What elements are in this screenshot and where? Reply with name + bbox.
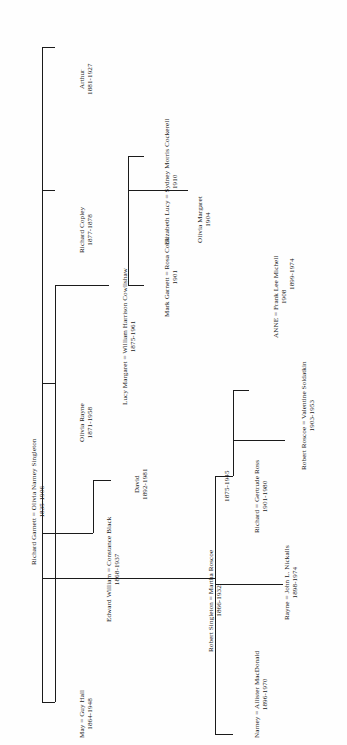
person-elizabeth-lucy-dates: 1910 [171,119,179,245]
person-anne-spouse-dates: 1899-1974 [288,258,296,290]
person-richard-gertrude-name: Richard = Gertrude Ross [253,460,261,533]
person-mark-garnett-name: Mark Garnett = Rosa Cook [163,237,171,317]
connector-robert-rayne [215,584,283,585]
person-richard-copley-dates: 1877-1878 [86,207,94,253]
person-narney-name: Narney = Allister MacDonald [253,651,261,738]
person-lucy-margaret-dates: 1875-1961 [129,268,137,405]
connector-root-arthur [42,47,55,48]
person-may: May = Guy Hall 1864-1948 [78,690,95,738]
connector-may-lucy-margaret [55,285,109,286]
person-olivia-margaret-dates: 1904 [204,196,212,243]
person-david: David 1892-1981 [133,468,150,500]
person-root: Richard Garnett = Olivia Narney Singleto… [30,439,47,566]
connector-root-richard-copley [42,190,55,191]
connector-root-olivia-rayne [42,383,55,384]
person-lucy-margaret: Lucy Margaret = William Harrison Cowlish… [121,268,138,405]
person-richard-gertrude: Richard = Gertrude Ross 1901-1980 [253,460,270,533]
person-arthur-dates: 1881-1927 [86,63,94,95]
person-robert-singleton-dates: 1866-1932 [215,550,223,652]
person-david-dates: 1892-1981 [141,468,149,500]
person-richard-copley-name: Richard Copley [78,207,86,253]
spine-may [55,285,56,702]
person-elizabeth-lucy-name: Elizabeth Lucy = Sydney Morris Cockerell [163,119,171,245]
person-olivia-rayne-dates: 1871-1958 [86,403,94,442]
connector-root-robert-singleton [42,578,215,579]
person-edward-william-name: Edward William = Constance Black [105,517,113,622]
person-frank-lee-michell-dates: 1899-1974 [288,258,296,290]
person-rayne: Rayne = John L. Nickalls 1898-1974 [283,545,300,620]
person-david-name: David [133,468,141,500]
person-edward-william: Edward William = Constance Black 1868-19… [105,517,122,622]
person-elizabeth-lucy: Elizabeth Lucy = Sydney Morris Cockerell… [163,119,180,245]
person-narney: Narney = Allister MacDonald 1896-1970 [253,651,270,738]
connector-lucy-mark-garnett [128,285,144,286]
person-may-name: May = Guy Hall [78,690,86,738]
person-narney-dates: 1896-1970 [261,651,269,738]
person-may-dates: 1864-1948 [86,690,94,738]
person-rayne-dates: 1898-1974 [291,545,299,620]
person-mark-garnett: Mark Garnett = Rosa Cook 1901 [163,237,180,317]
person-robert-roscoe-dates: 1903-1953 [308,361,316,470]
family-tree-diagram: Richard Garnett = Olivia Narney Singleto… [0,0,347,745]
connector-richard-anne [233,390,249,391]
person-robert-roscoe: Robert Roscoe = Valentine Soldatkin 1903… [300,361,317,470]
connector-lucy-elizabeth-lucy [128,156,144,157]
connector-robert-richard-gertrude [215,476,233,477]
person-arthur-name: Arthur [78,63,86,95]
person-olivia-rayne-name: Olivia Rayne [78,403,86,442]
person-olivia-rayne: Olivia Rayne 1871-1958 [78,403,95,442]
person-anne: ANNE = Frank Lee Michell 1908 [272,256,289,338]
person-olivia-margaret-name: Olivia Margaret [196,196,204,243]
spine-richard-gertrude [233,390,234,476]
connector-richard-robert-roscoe [233,440,285,441]
person-olivia-margaret: Olivia Margaret 1904 [196,196,213,243]
spine-lucy-margaret [128,156,129,285]
connector-robert-narney [215,734,233,735]
person-arthur: Arthur 1881-1927 [78,63,95,95]
connector-root-edward-william [42,533,93,534]
connector-edward-david [93,480,111,481]
person-anne-name: ANNE = Frank Lee Michell [272,256,280,338]
person-rayne-name: Rayne = John L. Nickalls [283,545,291,620]
person-robert-roscoe-name: Robert Roscoe = Valentine Soldatkin [300,361,308,470]
person-edward-william-dates: 1868-1937 [113,517,121,622]
person-richard-gertrude-dates: 1901-1980 [261,460,269,533]
person-richard-copley: Richard Copley 1877-1878 [78,207,95,253]
spine-robert-singleton [215,476,216,734]
root-spine [42,47,43,702]
connector-root-may [42,702,55,703]
spine-edward-william [93,480,94,533]
person-root-name: Richard Garnett = Olivia Narney Singleto… [30,439,38,566]
person-mark-garnett-dates: 1901 [171,237,179,317]
person-lucy-margaret-name: Lucy Margaret = William Harrison Cowlish… [121,268,129,405]
